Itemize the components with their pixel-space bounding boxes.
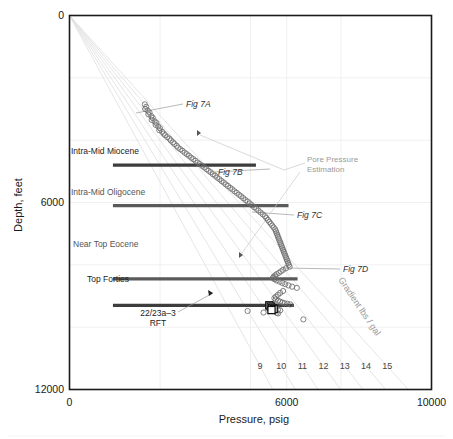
gradient-axis-title: Gradient lbs / gal bbox=[336, 275, 382, 337]
data-point bbox=[261, 310, 266, 315]
y-tick-12000: 12000 bbox=[35, 383, 64, 395]
gradient-number-12: 12 bbox=[319, 361, 329, 371]
horizon-label-forties: Top Forties bbox=[87, 274, 129, 284]
y-tick-0: 0 bbox=[58, 9, 64, 21]
rft-label-line2: RFT bbox=[150, 318, 167, 328]
gradient-number-9: 9 bbox=[258, 361, 263, 371]
y-axis-title: Depth, feet bbox=[12, 178, 24, 232]
gradient-number-15: 15 bbox=[382, 361, 392, 371]
x-axis-title: Pressure, psig bbox=[219, 413, 289, 425]
rft-point bbox=[268, 306, 275, 313]
horizon-label-miocene: Intra-Mid Miocene bbox=[71, 146, 139, 156]
pore-pressure-label-line2: Estimation bbox=[307, 165, 344, 174]
pore-pressure-label-line1: Pore Pressure bbox=[307, 155, 359, 164]
gradient-number-labels: 9101112131415 bbox=[258, 361, 393, 371]
leader-line bbox=[178, 293, 213, 312]
fig-7b-label: Fig 7B bbox=[218, 167, 243, 177]
leader-line bbox=[284, 163, 305, 170]
x-tick-6000: 6000 bbox=[275, 396, 299, 408]
rft-data-points bbox=[266, 302, 278, 314]
pore-pressure-depth-chart: 0 6000 12000 0 6000 10000 Pressure, psig… bbox=[0, 0, 453, 439]
x-tick-0: 0 bbox=[67, 396, 73, 408]
data-point bbox=[294, 285, 299, 290]
gradient-number-14: 14 bbox=[361, 361, 371, 371]
gradient-number-11: 11 bbox=[298, 361, 307, 371]
horizon-label-oligocene: Intra-Mid Oligocene bbox=[71, 187, 145, 197]
fig-7d-label: Fig 7D bbox=[343, 264, 368, 274]
fig-7a-label: Fig 7A bbox=[186, 99, 211, 109]
rft-label-line1: 22/23a–3 bbox=[140, 308, 176, 318]
fig-7c-label: Fig 7C bbox=[297, 210, 323, 220]
data-point bbox=[301, 317, 306, 322]
figure-root: 0 6000 12000 0 6000 10000 Pressure, psig… bbox=[0, 0, 453, 439]
gradient-number-13: 13 bbox=[340, 361, 350, 371]
gradient-number-10: 10 bbox=[276, 361, 286, 371]
horizon-label-eocene: Near Top Eocene bbox=[73, 239, 139, 249]
x-tick-10000: 10000 bbox=[417, 396, 446, 408]
y-tick-6000: 6000 bbox=[41, 196, 65, 208]
